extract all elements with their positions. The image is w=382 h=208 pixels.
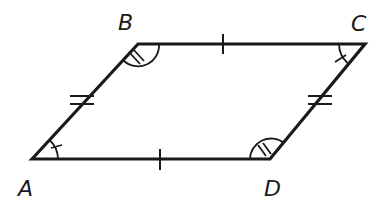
parallelogram-abcd xyxy=(32,44,365,159)
parallelogram-diagram: B C A D xyxy=(0,0,382,208)
vertex-label-d: D xyxy=(264,178,281,200)
vertex-label-b: B xyxy=(118,12,133,34)
angle-a-mark xyxy=(50,140,63,159)
angle-c-mark xyxy=(335,44,348,63)
vertex-label-a: A xyxy=(18,178,33,200)
diagram-canvas xyxy=(0,0,382,208)
vertex-label-c: C xyxy=(351,13,366,35)
